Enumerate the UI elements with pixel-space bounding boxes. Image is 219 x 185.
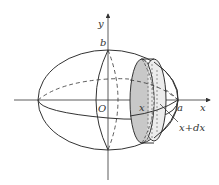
y-axis-label: y bbox=[97, 18, 104, 29]
x-plus-dx-label: x+dx bbox=[179, 122, 205, 133]
x-position-label: x bbox=[139, 102, 145, 113]
ellipsoid-diagram: y b O x a x x+dx bbox=[0, 0, 219, 185]
a-label: a bbox=[177, 102, 183, 113]
origin-label: O bbox=[98, 103, 106, 114]
x-axis-label: x bbox=[200, 102, 206, 113]
diagram-canvas: y b O x a x x+dx bbox=[0, 0, 219, 185]
b-label: b bbox=[100, 37, 106, 48]
